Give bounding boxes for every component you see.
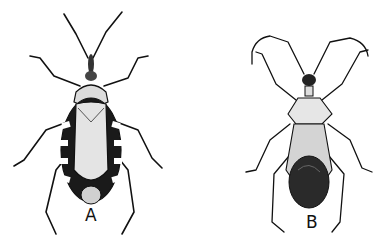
insect-b-illustration (190, 0, 387, 243)
panel-a: A (0, 0, 190, 243)
panel-label-a: A (85, 207, 97, 224)
insect-comparison-figure: A (0, 0, 387, 243)
panel-b: B (190, 0, 387, 243)
panel-label-b: B (306, 214, 318, 231)
